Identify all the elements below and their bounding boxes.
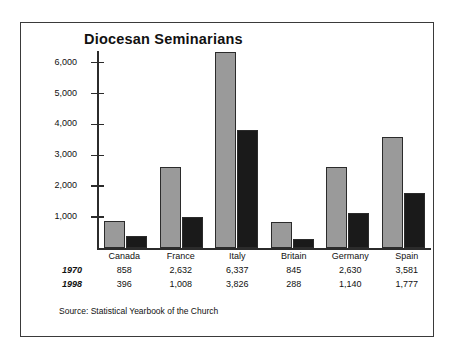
table-cell: 288: [266, 277, 323, 291]
y-axis-tick-label: 5,000: [31, 88, 77, 98]
bar-spain-1998: [404, 193, 425, 248]
table-cell: 3,826: [209, 277, 266, 291]
bar-italy-1970: [215, 52, 236, 248]
table-cell: 2,632: [153, 263, 210, 277]
bar-britain-1970: [271, 222, 292, 248]
table-row: 19708582,6326,3378452,6303,581: [21, 263, 435, 277]
bar-germany-1998: [348, 213, 369, 248]
y-axis-tick-label: 2,000: [31, 180, 77, 190]
chart-frame: Diocesan Seminarians 1,0002,0003,0004,00…: [20, 22, 434, 337]
y-axis-tick-label: 6,000: [31, 57, 77, 67]
table-column-header: Spain: [379, 249, 436, 263]
source-note: Source: Statistical Yearbook of the Chur…: [59, 306, 218, 316]
table-body: 19708582,6326,3378452,6303,58119983961,0…: [21, 263, 435, 291]
table-row: 19983961,0083,8262881,1401,777: [21, 277, 435, 291]
table-column-header: Britain: [266, 249, 323, 263]
table-cell: 1,008: [153, 277, 210, 291]
table-cell: 3,581: [379, 263, 436, 277]
table-row-label: 1970: [21, 263, 96, 277]
table-cell: 6,337: [209, 263, 266, 277]
data-table: CanadaFranceItalyBritainGermanySpain 197…: [21, 249, 435, 291]
y-axis-tick-label: 4,000: [31, 118, 77, 128]
table-column-header: Italy: [209, 249, 266, 263]
table-cell: 1,777: [379, 277, 436, 291]
bar-italy-1998: [237, 130, 258, 248]
bar-germany-1970: [326, 167, 347, 248]
table-cell: 2,630: [322, 263, 379, 277]
table-header-row: CanadaFranceItalyBritainGermanySpain: [21, 249, 435, 263]
table-column-header: France: [153, 249, 210, 263]
bar-canada-1970: [104, 221, 125, 248]
y-axis-tick-label: 1,000: [31, 211, 77, 221]
table-row-label: 1998: [21, 277, 96, 291]
table-column-header: Canada: [96, 249, 153, 263]
table-cell: 396: [96, 277, 153, 291]
bar-france-1970: [160, 167, 181, 248]
table-cell: 845: [266, 263, 323, 277]
y-axis-line: [97, 51, 99, 248]
table-column-header: Germany: [322, 249, 379, 263]
y-axis-tick-label: 3,000: [31, 149, 77, 159]
table-cell: 1,140: [322, 277, 379, 291]
bar-canada-1998: [126, 236, 147, 248]
bar-spain-1970: [382, 137, 403, 248]
bar-france-1998: [182, 217, 203, 248]
table-cell: 858: [96, 263, 153, 277]
bar-britain-1998: [293, 239, 314, 248]
table-corner-cell: [21, 249, 96, 263]
